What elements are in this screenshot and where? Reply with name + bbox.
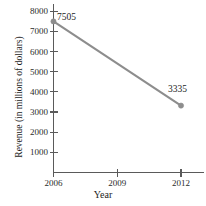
x-tick-label-2006: 2006: [45, 178, 63, 188]
revenue-series-line: [54, 21, 182, 105]
y-tick-label-2000: 2000: [24, 127, 48, 137]
x-tick-label-2012: 2012: [172, 178, 190, 188]
data-point-2006: [51, 19, 56, 24]
data-label-3335: 3335: [168, 84, 187, 94]
data-label-7505: 7505: [57, 12, 76, 22]
y-tick-label-8000: 8000: [24, 6, 48, 16]
revenue-line-chart: 8000 7000 6000 5000 4000 3000 2000 1000 …: [0, 0, 206, 206]
data-point-2012: [178, 103, 183, 108]
y-axis-title: Revenue (in millions of dollars): [14, 22, 24, 172]
y-tick-label-1000: 1000: [24, 147, 48, 157]
y-tick-label-7000: 7000: [24, 26, 48, 36]
y-tick-label-6000: 6000: [24, 47, 48, 57]
x-axis-title: Year: [0, 189, 206, 200]
y-tick-label-5000: 5000: [24, 67, 48, 77]
x-tick-label-2009: 2009: [108, 178, 126, 188]
y-tick-label-4000: 4000: [24, 87, 48, 97]
y-tick-label-3000: 3000: [24, 107, 48, 117]
